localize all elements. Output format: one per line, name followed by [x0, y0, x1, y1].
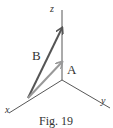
x-axis	[9, 80, 62, 113]
y-axis-label: y	[100, 95, 106, 106]
vector-diagram: z x y B A Fig. 19	[0, 0, 113, 128]
figure-caption: Fig. 19	[39, 114, 73, 128]
vector-b	[28, 28, 62, 98]
x-axis-label: x	[4, 104, 10, 115]
z-axis-label: z	[49, 3, 54, 14]
vector-a	[28, 62, 62, 98]
vector-b-label: B	[32, 48, 41, 63]
vector-a-label: A	[67, 62, 77, 77]
